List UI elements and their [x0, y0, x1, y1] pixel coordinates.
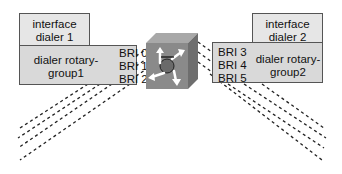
- left-group-label-2: group1: [26, 67, 106, 80]
- port-bri4: BRI 4: [218, 59, 247, 72]
- port-bri3: BRI 3: [218, 46, 247, 59]
- left-group-label-1: dialer rotary-: [26, 54, 106, 67]
- port-bri2: BRI 2: [119, 73, 148, 86]
- right-group-label-2: group2: [253, 66, 323, 79]
- right-interface-label-1: interface: [253, 18, 322, 31]
- left-interface-label-1: interface: [20, 18, 89, 31]
- right-rotary-group-box: BRI 3 BRI 4 BRI 5 dialer rotary- group2: [212, 42, 323, 83]
- port-bri5: BRI 5: [218, 72, 247, 85]
- router-cube-icon: [146, 33, 198, 89]
- port-bri1: BRI 1: [119, 60, 148, 73]
- port-bri0: BRI 0: [119, 47, 148, 60]
- left-interface-label-2: dialer 1: [20, 31, 89, 44]
- right-group-label-1: dialer rotary-: [253, 53, 323, 66]
- left-interface-box: interface dialer 1: [19, 13, 90, 46]
- left-rotary-group-box: dialer rotary- group1 BRI 0 BRI 1 BRI 2: [19, 45, 137, 85]
